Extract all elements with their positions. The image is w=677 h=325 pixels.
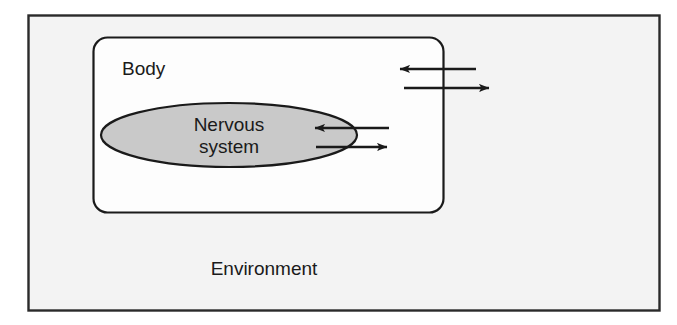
nervous-system-label-line-2: system <box>199 136 259 157</box>
body-label: Body <box>122 58 165 80</box>
nervous-system-label: Nervoussystem <box>163 114 295 159</box>
environment-label: Environment <box>180 258 348 280</box>
nervous-system-label-line-1: Nervous <box>194 114 265 135</box>
diagram-canvas: Body Nervoussystem Environment <box>0 0 677 325</box>
